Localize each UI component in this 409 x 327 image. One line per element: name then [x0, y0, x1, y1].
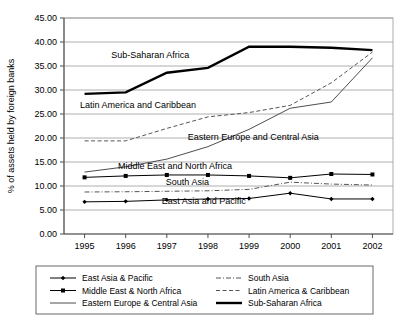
series-line-1	[85, 174, 373, 178]
y-axis-title: % of assets held by foreign banks	[6, 58, 16, 193]
legend-label-5: Sub-Saharan Africa	[248, 298, 322, 308]
x-axis-tick-label: 2001	[321, 241, 341, 251]
series-marker-1	[370, 172, 374, 176]
legend-label-0: East Asia & Pacific	[82, 273, 154, 283]
x-axis-tick-label: 1997	[157, 241, 177, 251]
legend-label-1: South Asia	[248, 273, 289, 283]
series-marker-1	[288, 176, 292, 180]
line-chart: 0.005.0010.0015.0020.0025.0030.0035.0040…	[0, 0, 409, 327]
series-line-3	[85, 182, 373, 192]
chart-annotation-0: Sub-Saharan Africa	[111, 50, 189, 60]
x-axis-tick-label: 1999	[239, 241, 259, 251]
x-axis-tick-label: 2002	[362, 241, 382, 251]
series-marker-1	[83, 175, 87, 179]
y-axis-tick-label: 45.00	[34, 13, 57, 23]
series-marker-1	[247, 174, 251, 178]
y-axis-tick-label: 15.00	[34, 157, 57, 167]
x-axis-tick-label: 1996	[116, 241, 136, 251]
series-marker-0	[123, 199, 127, 203]
y-axis-tick-label: 10.00	[34, 181, 57, 191]
y-axis-tick-label: 40.00	[34, 37, 57, 47]
series-marker-0	[288, 191, 292, 195]
series-marker-0	[370, 197, 374, 201]
y-axis-tick-label: 0.00	[39, 229, 57, 239]
series-marker-1	[124, 174, 128, 178]
legend-label-3: Latin America & Caribbean	[248, 286, 349, 296]
chart-container: 0.005.0010.0015.0020.0025.0030.0035.0040…	[0, 0, 409, 327]
legend-marker-2	[61, 289, 65, 293]
chart-annotation-5: East Asia and Pacific	[162, 196, 247, 206]
series-line-4	[85, 52, 373, 141]
y-axis-tick-label: 25.00	[34, 109, 57, 119]
legend-marker-0	[61, 276, 65, 280]
series-marker-0	[329, 197, 333, 201]
series-marker-0	[82, 200, 86, 204]
y-axis-tick-label: 20.00	[34, 133, 57, 143]
y-axis-tick-label: 35.00	[34, 61, 57, 71]
x-axis-tick-label: 2000	[280, 241, 300, 251]
chart-annotation-2: Eastern Europe and Central Asia	[188, 132, 319, 142]
legend-label-2: Middle East & North Africa	[82, 286, 181, 296]
series-marker-1	[329, 172, 333, 176]
y-axis-tick-label: 5.00	[39, 205, 57, 215]
x-axis-tick-label: 1995	[75, 241, 95, 251]
chart-annotation-4: South Asia	[166, 177, 209, 187]
chart-annotation-1: Latin America and Caribbean	[80, 100, 196, 110]
x-axis-tick-label: 1998	[198, 241, 218, 251]
y-axis-tick-label: 30.00	[34, 85, 57, 95]
series-line-2	[85, 58, 373, 172]
chart-annotation-3: Middle East and North Africa	[118, 161, 232, 171]
legend-label-4: Eastern Europe & Central Asia	[82, 298, 198, 308]
series-marker-0	[247, 196, 251, 200]
